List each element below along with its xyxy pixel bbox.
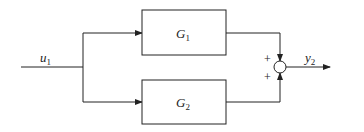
summing-junction: [274, 61, 286, 73]
block-diagram: u1 G1 G2 + + y2: [0, 0, 364, 132]
g2-to-sum: [226, 73, 280, 102]
g1-to-sum: [226, 33, 280, 61]
output-label: y2: [303, 50, 315, 67]
sign-bottom: +: [264, 70, 271, 84]
input-label: u1: [40, 50, 51, 67]
sign-top: +: [264, 52, 271, 66]
